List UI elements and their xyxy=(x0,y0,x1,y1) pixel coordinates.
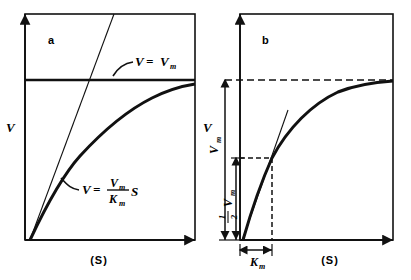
km-label-text: K xyxy=(249,255,259,269)
slope-eq-v: V xyxy=(82,182,92,197)
panel-a-tangent-line xyxy=(30,14,114,240)
kinetics-figure-svg: a V = V m V = V m K m S V (S) xyxy=(0,0,411,280)
slope-eq-den-sub: m xyxy=(119,199,125,208)
panel-a-letter: a xyxy=(48,34,55,46)
panel-a-y-axis-label: V xyxy=(6,120,16,135)
panel-a: a V = V m V = V m K m S V (S) xyxy=(6,14,195,266)
panel-b-frame xyxy=(240,14,393,240)
half-vm-label-sub: m xyxy=(228,190,237,196)
panel-b-vm-label: V m xyxy=(207,137,223,154)
vmax-label-vm: V xyxy=(160,54,170,69)
vmax-label-vm-sub: m xyxy=(170,62,176,71)
vm-label-sub: m xyxy=(214,137,223,143)
panel-a-vmax-label: V = V m xyxy=(135,54,176,71)
slope-eq-equals: = xyxy=(93,182,100,197)
panel-a-vmax-leader xyxy=(113,62,133,76)
km-label-sub: m xyxy=(259,262,265,271)
panel-b-hyperbola-curve xyxy=(243,81,393,240)
half-vm-label-text: V xyxy=(221,198,235,207)
vm-label-text: V xyxy=(207,145,221,154)
panel-b-x-axis-label: (S) xyxy=(321,254,339,266)
half-vm-frac-num: 1 xyxy=(217,215,227,220)
vmax-label-equals: = xyxy=(146,54,153,69)
panel-b-y-axis-label: V xyxy=(203,120,213,135)
panel-b-letter: b xyxy=(262,34,269,46)
vmax-label-v: V xyxy=(135,54,145,69)
panel-a-x-axis-label: (S) xyxy=(90,254,108,266)
panel-a-slope-equation: V = V m K m S xyxy=(82,176,138,208)
half-vm-frac-den: 2 xyxy=(229,214,239,220)
panel-a-hyperbola-curve xyxy=(30,84,195,240)
slope-eq-num-v: V xyxy=(110,176,119,190)
slope-eq-s: S xyxy=(131,184,138,199)
slope-eq-den-k: K xyxy=(108,192,118,206)
panel-b: b V m 1 2 V m K m V (S) xyxy=(203,14,393,271)
figure-container: a V = V m V = V m K m S V (S) xyxy=(0,0,411,280)
panel-b-km-label: K m xyxy=(249,255,265,271)
